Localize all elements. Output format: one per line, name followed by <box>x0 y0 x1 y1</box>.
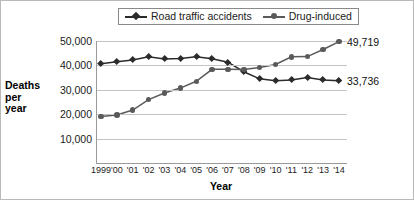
data-point-marker <box>209 67 214 72</box>
y-gridline <box>97 139 347 140</box>
x-tick-label: '04 <box>174 165 186 175</box>
legend-entry-drug-induced: Drug-induced <box>263 11 352 22</box>
data-point-marker <box>162 90 167 95</box>
data-point-marker <box>114 112 119 117</box>
chart-figure: Road traffic accidents Drug-induced Deat… <box>0 0 414 200</box>
y-tick-label: 40,000 <box>60 59 92 71</box>
x-tick-label: '07 <box>222 165 234 175</box>
data-point-marker <box>98 114 103 119</box>
y-axis-title-line: year <box>5 103 53 115</box>
y-tick-label: 50,000 <box>60 35 92 47</box>
data-point-marker <box>320 47 325 52</box>
series-line-drug-induced <box>101 42 339 117</box>
x-tick-label: '09 <box>254 165 266 175</box>
y-tick-label: 30,000 <box>60 84 92 96</box>
end-value-label-road-traffic-accidents: 33,736 <box>347 75 379 87</box>
data-point-marker <box>178 85 183 90</box>
y-gridline <box>97 90 347 91</box>
data-point-marker <box>194 79 199 84</box>
data-point-marker <box>225 67 230 72</box>
x-tick-label: '05 <box>190 165 202 175</box>
end-value-label-drug-induced: 49,719 <box>347 36 379 48</box>
chart-legend: Road traffic accidents Drug-induced <box>118 8 359 25</box>
x-tick-label: '14 <box>333 165 345 175</box>
legend-marker-drug <box>271 13 277 19</box>
x-tick-label: '02 <box>143 165 155 175</box>
y-axis-title-line: Deaths <box>5 80 53 92</box>
x-tick-label: '08 <box>238 165 250 175</box>
data-point-marker <box>336 39 341 44</box>
y-gridline <box>97 65 347 66</box>
x-tick-label: '13 <box>317 165 329 175</box>
y-gridline <box>97 41 347 42</box>
x-tick-label: '12 <box>301 165 313 175</box>
y-gridline <box>97 114 347 115</box>
legend-entry-road-traffic-accidents: Road traffic accidents <box>125 11 252 22</box>
circle-marker-icon <box>263 12 285 21</box>
y-tick-label: 10,000 <box>60 133 92 145</box>
plot-area: 10,00020,00030,00040,00050,0001999'00'01… <box>96 41 347 164</box>
x-tick-label: '11 <box>286 165 297 175</box>
diamond-marker-icon <box>125 12 147 21</box>
x-tick-label: 1999 <box>91 165 111 175</box>
legend-label-drug-induced: Drug-induced <box>289 11 352 22</box>
y-tick-label: 20,000 <box>60 108 92 120</box>
x-tick-label: '00 <box>111 165 123 175</box>
legend-label-road-traffic-accidents: Road traffic accidents <box>151 11 252 22</box>
x-tick-label: '06 <box>206 165 218 175</box>
data-point-marker <box>241 67 246 72</box>
data-point-marker <box>289 54 294 59</box>
legend-marker-road <box>132 12 140 20</box>
y-axis-title: Deathsperyear <box>5 80 53 115</box>
x-axis-title: Year <box>96 180 346 192</box>
x-tick-label: '10 <box>270 165 282 175</box>
x-tick-label: '03 <box>159 165 171 175</box>
x-tick-label: '01 <box>127 165 139 175</box>
